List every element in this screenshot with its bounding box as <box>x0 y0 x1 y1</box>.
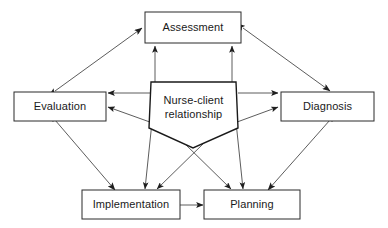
edge-center-implementation-vertical <box>145 122 152 189</box>
node-center-pentagon[interactable]: Nurse-client relationship <box>149 82 238 148</box>
diagram-canvas: Assessment Evaluation Diagnosis Implemen… <box>0 0 388 228</box>
node-diagnosis-label: Diagnosis <box>303 100 353 112</box>
edge-center-apex-planning <box>183 142 231 189</box>
node-assessment-label: Assessment <box>163 21 224 33</box>
edge-diagnosis-planning <box>268 120 330 190</box>
edge-evaluation-implementation <box>55 120 115 190</box>
node-planning-label: Planning <box>230 198 274 210</box>
node-assessment[interactable]: Assessment <box>145 12 241 43</box>
edge-assessment-diagnosis <box>243 28 330 91</box>
node-implementation[interactable]: Implementation <box>82 190 180 219</box>
edge-evaluation-assessment <box>55 28 142 91</box>
edge-center-planning-vertical <box>236 122 243 189</box>
diagram-svg: Assessment Evaluation Diagnosis Implemen… <box>0 0 388 228</box>
center-label-line1: Nurse-client <box>164 94 224 106</box>
center-label-line2: relationship <box>165 108 222 120</box>
node-planning[interactable]: Planning <box>204 190 300 219</box>
edge-center-apex-implementation <box>157 142 205 189</box>
node-implementation-label: Implementation <box>93 198 170 210</box>
node-diagnosis[interactable]: Diagnosis <box>281 92 374 121</box>
node-evaluation[interactable]: Evaluation <box>14 92 106 121</box>
node-evaluation-label: Evaluation <box>34 100 86 112</box>
